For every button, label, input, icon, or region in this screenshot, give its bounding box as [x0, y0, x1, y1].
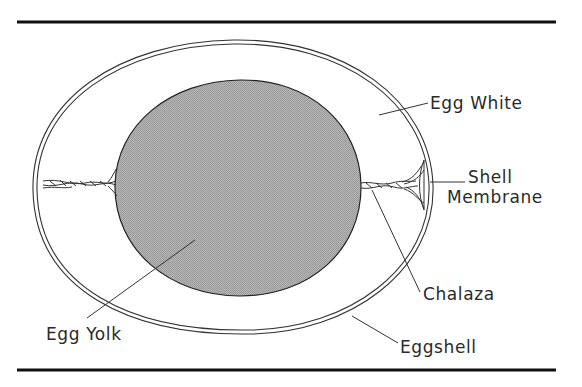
eggshell-label: Eggshell	[400, 339, 477, 356]
egg-white-label: Egg White	[430, 95, 523, 112]
chalaza-label: Chalaza	[423, 286, 495, 303]
egg-yolk-label: Egg Yolk	[46, 326, 122, 343]
shell-label: Shell	[468, 169, 512, 186]
egg-yolk-shape	[115, 80, 361, 296]
eggshell-leader	[352, 316, 398, 343]
membrane-label: Membrane	[447, 189, 543, 206]
egg-diagram: Egg White Shell Membrane Chalaza Eggshel…	[0, 0, 582, 387]
